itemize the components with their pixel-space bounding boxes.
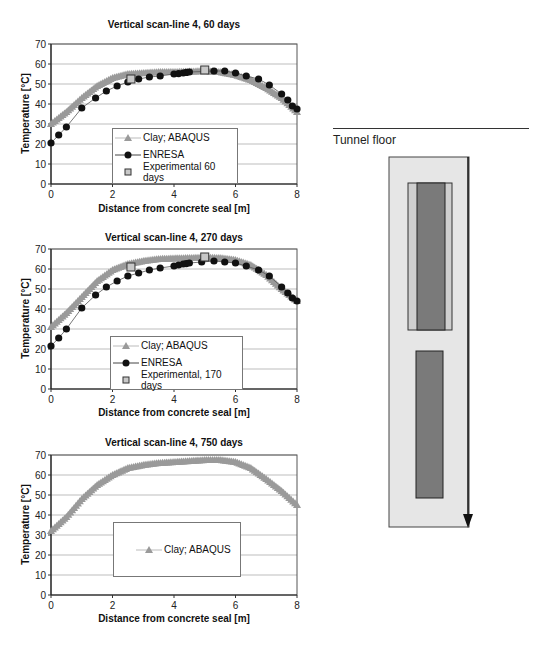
arrow-down-icon	[463, 514, 473, 528]
svg-text:4: 4	[171, 600, 177, 611]
svg-text:10: 10	[35, 570, 47, 581]
svg-text:50: 50	[35, 490, 47, 501]
svg-text:0: 0	[48, 600, 54, 611]
svg-text:6: 6	[233, 600, 239, 611]
legend-item-abaqus: Clay; ABAQUS	[114, 541, 240, 558]
upper-heater-casing	[408, 183, 452, 330]
legend-label: Clay; ABAQUS	[164, 544, 231, 555]
outer-box	[389, 157, 469, 527]
tunnel-floor-line	[333, 128, 529, 129]
x-axis-label: Distance from concrete seal [m]	[51, 613, 297, 624]
svg-text:70: 70	[35, 450, 47, 461]
tunnel-floor-label: Tunnel floor	[333, 133, 396, 147]
lower-heater	[416, 351, 443, 498]
svg-text:0: 0	[40, 590, 46, 601]
svg-text:8: 8	[294, 600, 300, 611]
svg-text:30: 30	[35, 530, 47, 541]
svg-text:2: 2	[110, 600, 116, 611]
legend: Clay; ABAQUS	[113, 522, 241, 577]
upper-heater	[417, 183, 445, 330]
svg-text:60: 60	[35, 470, 47, 481]
triangle-marker-icon	[134, 544, 164, 556]
chart-750-days: Vertical scan-line 4, 750 days Temperatu…	[0, 0, 320, 640]
svg-text:20: 20	[35, 550, 47, 561]
svg-text:40: 40	[35, 510, 47, 521]
figure-caption-cut	[0, 640, 3, 645]
